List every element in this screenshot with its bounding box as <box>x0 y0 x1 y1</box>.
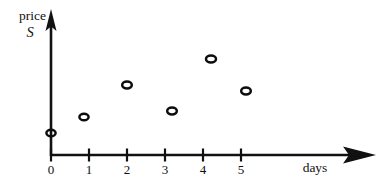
x-tick-label-5: 5 <box>238 162 245 177</box>
x-tick-label-3: 3 <box>162 162 169 177</box>
data-point-series <box>46 56 250 137</box>
x-tick-label-0: 0 <box>48 162 55 177</box>
plot-canvas: 0 1 2 3 4 5 price S days <box>0 0 381 182</box>
y-axis-label-symbol: S <box>26 24 34 40</box>
x-axis-label-days: days <box>303 160 328 175</box>
x-axis-tick-labels: 0 1 2 3 4 5 <box>48 162 245 177</box>
data-point-4 <box>206 56 216 63</box>
x-tick-label-1: 1 <box>86 162 93 177</box>
data-point-5 <box>241 88 251 95</box>
data-point-1 <box>79 114 88 121</box>
data-point-3 <box>167 108 177 115</box>
data-point-2 <box>122 82 132 89</box>
y-axis-label-price: price <box>19 8 46 23</box>
x-tick-label-4: 4 <box>200 162 207 177</box>
x-tick-label-2: 2 <box>124 162 131 177</box>
scatter-plot-figure: 0 1 2 3 4 5 price S days <box>0 0 381 182</box>
